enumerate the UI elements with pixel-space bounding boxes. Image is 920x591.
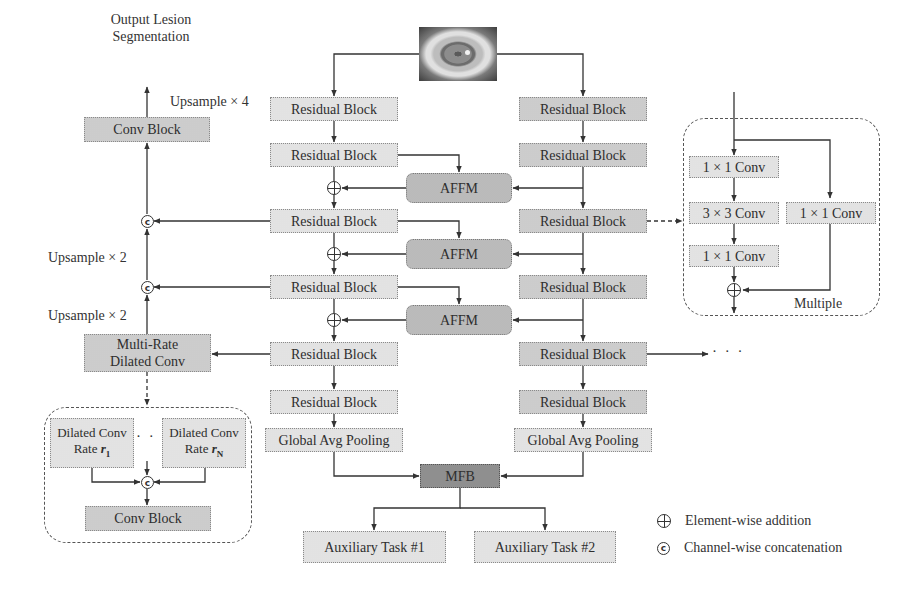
dilated-conv-label: Dilated Conv [169,425,239,441]
right-residual-block-6: Residual Block [519,390,647,414]
right-residual-block-3: Residual Block [519,209,647,233]
continuation-ellipsis: · · · [712,343,745,360]
right-residual-block-1: Residual Block [519,97,647,121]
rate-label: Rate rN [185,441,224,462]
channel-concat-icon: c [141,215,154,228]
dilated-conv-rate-n: Dilated Conv Rate rN [162,418,246,468]
legend-label: Channel-wise concatenation [684,540,842,556]
element-wise-addition-icon [327,181,341,195]
left-residual-block-1: Residual Block [270,97,398,121]
output-segmentation-label: Output Lesion Segmentation [96,11,206,45]
affm-module-2: AFFM [406,239,512,269]
channel-concat-icon: c [141,476,154,489]
conv-1x1-a: 1 × 1 Conv [689,156,779,178]
multi-rate-line-1: Multi-Rate [117,336,178,353]
right-residual-block-5: Residual Block [519,342,647,366]
eye-glint [465,50,470,55]
auxiliary-task-2: Auxiliary Task #2 [474,531,616,563]
input-eye-image [419,27,497,81]
element-wise-addition-icon [327,247,341,261]
rate-label: Rate r1 [74,441,111,462]
auxiliary-task-1: Auxiliary Task #1 [303,531,446,563]
element-wise-addition-icon [727,283,741,297]
conv-1x1-shortcut: 1 × 1 Conv [786,202,876,224]
right-global-avg-pooling: Global Avg Pooling [514,428,652,452]
element-wise-addition-icon [327,313,341,327]
dilated-conv-label: Dilated Conv [57,425,127,441]
right-residual-block-2: Residual Block [519,143,647,167]
architecture-diagram: Output Lesion Segmentation Upsample × 4 … [0,0,920,591]
multi-rate-dilated-conv: Multi-Rate Dilated Conv [84,334,211,372]
channel-concat-icon: c [141,281,154,294]
affm-module-3: AFFM [406,305,512,335]
conv-3x3: 3 × 3 Conv [689,202,779,224]
decoder-conv-block: Conv Block [84,117,210,142]
left-global-avg-pooling: Global Avg Pooling [265,428,403,452]
upsample-x4-label: Upsample × 4 [170,93,249,110]
affm-module-1: AFFM [406,173,512,203]
legend-item-concatenation: c Channel-wise concatenation [657,540,842,556]
multiple-label: Multiple [794,295,842,312]
upsample-x2-label-1: Upsample × 2 [48,249,127,266]
output-label-line-1: Output Lesion [96,11,206,28]
mfb-module: MFB [420,464,500,488]
upsample-x2-label-2: Upsample × 2 [48,307,127,324]
left-residual-block-2: Residual Block [270,143,398,167]
conv-1x1-b: 1 × 1 Conv [689,245,779,267]
left-residual-block-3: Residual Block [270,209,398,233]
output-label-line-2: Segmentation [96,28,206,45]
channel-concat-icon: c [657,542,670,555]
left-residual-block-6: Residual Block [270,390,398,414]
legend-label: Element-wise addition [685,513,811,529]
right-residual-block-4: Residual Block [519,275,647,299]
dilated-detail-conv-block: Conv Block [85,506,211,531]
dilated-conv-rate-1: Dilated Conv Rate r1 [50,418,134,468]
element-wise-addition-icon [657,514,671,528]
left-residual-block-5: Residual Block [270,342,398,366]
multi-rate-line-2: Dilated Conv [110,353,185,370]
left-residual-block-4: Residual Block [270,275,398,299]
legend-item-addition: Element-wise addition [657,513,811,529]
